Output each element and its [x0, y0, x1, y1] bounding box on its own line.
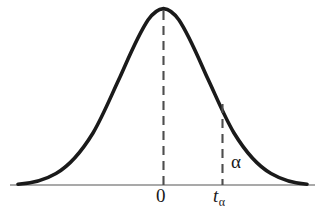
distribution-plot-svg — [0, 0, 320, 213]
critical-value-subscript-alpha: α — [219, 195, 225, 209]
critical-value-variable: t — [213, 185, 218, 206]
tail-area-alpha-label: α — [231, 152, 241, 171]
x-axis-label-origin: 0 — [156, 186, 166, 205]
x-axis-label-critical-value: tα — [213, 186, 225, 208]
distribution-figure: 0 tα α — [0, 0, 320, 213]
